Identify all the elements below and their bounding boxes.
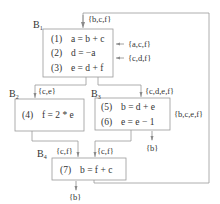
stmt-num: (5)	[101, 102, 112, 113]
stmt-num: (4)	[22, 110, 33, 121]
stmt-code: d = −a	[71, 48, 96, 58]
stmt-num: (7)	[60, 165, 71, 176]
stmt-num: (2)	[51, 48, 62, 59]
live-set: {c,d,f}	[128, 53, 151, 63]
live-set: {c,f}	[56, 146, 73, 156]
edge-b1-b3	[98, 77, 141, 97]
arrow-down-icon	[75, 186, 78, 191]
live-set: {b}	[146, 143, 158, 153]
stmt-code: b = d + e	[121, 102, 155, 112]
stmt-num: (6)	[101, 117, 112, 128]
stmt-code: e = e − 1	[121, 117, 155, 127]
block-label-b3: B3	[91, 88, 101, 100]
control-flow-graph: B1 B2 B3 B4 {b,c,f} (1) a = b + c (2) d …	[0, 0, 220, 204]
arrow-down-icon	[151, 136, 154, 141]
entry-live-set: {b,c,f}	[88, 14, 111, 24]
stmt-code: b = f + c	[80, 165, 112, 175]
arrow-down-icon	[140, 92, 143, 97]
arrow-left-icon	[116, 57, 120, 60]
block-label-b1: B1	[33, 19, 43, 31]
arrow-down-icon	[81, 22, 85, 28]
arrow-down-icon	[77, 152, 80, 157]
arrow-left-icon	[116, 43, 120, 46]
live-set: {c,d,e,f}	[145, 86, 174, 96]
stmt-code: f = 2 * e	[42, 110, 74, 120]
stmt-num: (3)	[51, 63, 62, 74]
stmt-code: a = b + c	[71, 34, 104, 44]
stmt-num: (1)	[51, 34, 62, 45]
live-set: {c,e}	[38, 86, 56, 96]
live-set: {c,f}	[97, 146, 114, 156]
live-set: {a,c,f}	[128, 39, 151, 49]
arrow-down-icon	[34, 93, 37, 98]
live-set: {b}	[69, 192, 81, 202]
block-label-b2: B2	[9, 88, 19, 100]
block-label-b4: B4	[37, 148, 47, 160]
stmt-code: e = d + f	[71, 63, 104, 73]
live-set: {b,c,e,f}	[174, 109, 203, 119]
